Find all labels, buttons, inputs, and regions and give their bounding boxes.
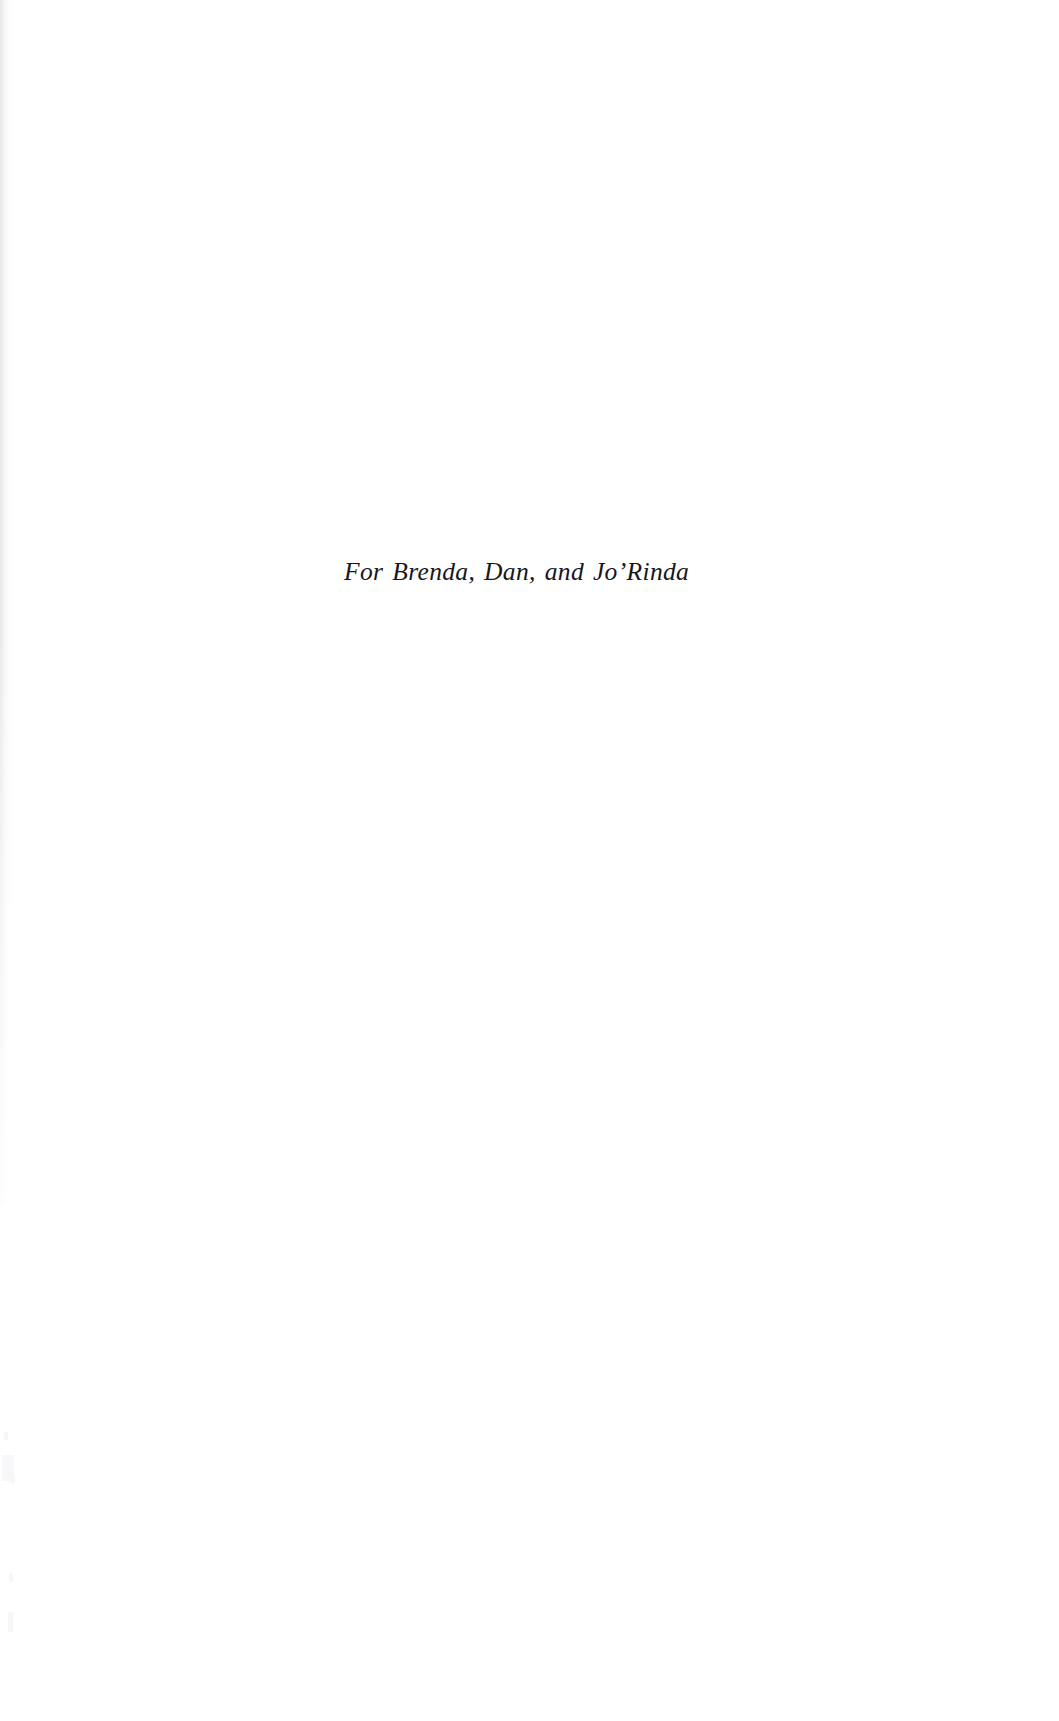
dedication-text: For Brenda, Dan, and Jo’Rinda <box>344 556 689 588</box>
dedication-page: For Brenda, Dan, and Jo’Rinda <box>0 0 1059 1721</box>
page-text-block: For Brenda, Dan, and Jo’Rinda <box>0 0 1059 1721</box>
